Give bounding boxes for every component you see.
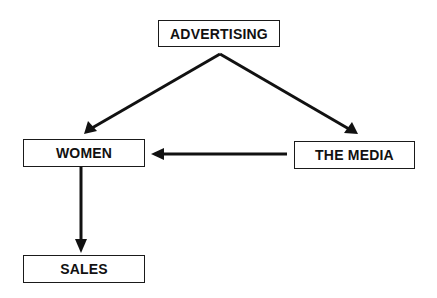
edge-advertising-media xyxy=(220,54,358,134)
node-advertising: ADVERTISING xyxy=(158,20,280,47)
node-label: ADVERTISING xyxy=(170,26,268,42)
edge-media-women xyxy=(151,148,287,160)
node-sales: SALES xyxy=(23,255,145,283)
edge-advertising-women xyxy=(84,54,220,134)
node-the-media: THE MEDIA xyxy=(294,141,415,169)
node-label: THE MEDIA xyxy=(315,147,394,163)
node-label: WOMEN xyxy=(56,145,112,161)
node-label: SALES xyxy=(60,261,108,277)
edge-women-sales xyxy=(75,167,87,253)
arrowhead-icon xyxy=(151,148,164,160)
node-women: WOMEN xyxy=(23,139,145,167)
arrowhead-icon xyxy=(75,239,87,253)
